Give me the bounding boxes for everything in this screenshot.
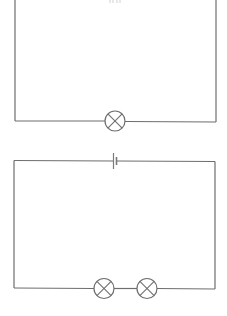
circuit-2-top-wire-right <box>117 161 215 162</box>
circuit-2-lamp-1-icon <box>94 279 114 299</box>
circuit-2-bottom-wire-right <box>157 289 215 290</box>
circuit-2-cell-icon <box>114 153 117 169</box>
circuit-1-lamp-icon <box>105 111 125 131</box>
circuit-2-top-wire-left <box>14 161 113 162</box>
circuit-2-bottom-wire-left <box>14 288 94 289</box>
circuit-2 <box>14 153 215 299</box>
circuit-1 <box>15 0 216 131</box>
circuit-1-cell-icon <box>110 0 120 3</box>
circuit-diagram <box>0 0 227 316</box>
circuit-1-bottom-wire-right <box>125 122 216 123</box>
circuit-2-lamp-2-icon <box>137 279 157 299</box>
